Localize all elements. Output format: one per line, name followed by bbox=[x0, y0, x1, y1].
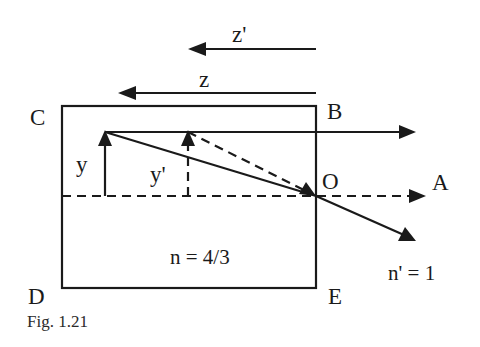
optical-axis bbox=[62, 189, 426, 203]
image-distance-arrow bbox=[188, 42, 316, 56]
object-arrow bbox=[98, 130, 112, 196]
refraction-diagram: z' z C B D E O A y y' bbox=[0, 0, 480, 347]
corner-c-label: C bbox=[30, 105, 45, 130]
point-o-label: O bbox=[322, 169, 339, 194]
corner-b-label: B bbox=[327, 99, 342, 124]
object-distance-arrow bbox=[118, 86, 316, 100]
object-height-label: y bbox=[76, 152, 88, 177]
object-distance-label: z bbox=[199, 67, 209, 92]
corner-e-label: E bbox=[328, 284, 342, 309]
medium-index-label: n = 4/3 bbox=[170, 245, 230, 269]
image-arrow bbox=[181, 130, 195, 196]
incident-ray bbox=[105, 132, 316, 196]
figure-caption: Fig. 1.21 bbox=[27, 312, 88, 331]
outside-index-label: n' = 1 bbox=[388, 261, 435, 285]
parallel-ray bbox=[105, 125, 416, 139]
point-a-label: A bbox=[432, 170, 449, 195]
refracted-ray bbox=[316, 196, 416, 241]
image-height-label: y' bbox=[150, 162, 166, 187]
corner-d-label: D bbox=[28, 284, 45, 309]
image-distance-label: z' bbox=[232, 22, 246, 47]
